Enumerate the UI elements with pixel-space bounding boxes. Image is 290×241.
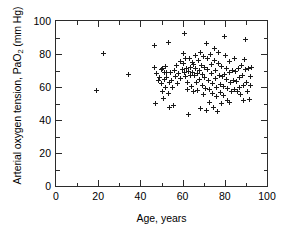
x-axis-minor-tick-top	[162, 21, 163, 25]
y-axis-title: Arterial oxygen tension, PaO2 (mm Hg)	[10, 2, 24, 189]
y-axis-title-main: Arterial oxygen tension, PaO	[11, 54, 23, 185]
data-point	[198, 106, 203, 111]
data-point	[153, 101, 158, 106]
plot-area: 020406080100020406080100	[55, 20, 268, 187]
x-axis-major-tick	[225, 180, 226, 186]
y-axis-tick-label: 20	[39, 148, 51, 159]
x-axis-tick-label: 20	[92, 191, 104, 202]
y-axis-major-tick-right	[261, 54, 267, 55]
x-axis-major-tick	[140, 180, 141, 186]
y-axis-major-tick-right	[261, 87, 267, 88]
x-axis-minor-tick	[204, 183, 205, 187]
y-axis-tick-label: 80	[39, 49, 51, 60]
data-point	[223, 53, 228, 58]
y-axis-major-tick	[56, 54, 62, 55]
y-axis-major-tick-right	[261, 120, 267, 121]
y-axis-major-tick	[56, 87, 62, 88]
data-point	[232, 56, 237, 61]
data-point	[175, 81, 180, 86]
x-axis-tick-label: 0	[53, 191, 59, 202]
data-point	[101, 51, 106, 56]
data-point	[161, 96, 166, 101]
x-axis-minor-tick-top	[119, 21, 120, 25]
y-axis-title-units: (mm Hg)	[11, 7, 23, 50]
data-point	[247, 97, 252, 102]
x-axis-minor-tick	[77, 183, 78, 187]
y-axis-minor-tick-right	[264, 170, 268, 171]
x-axis-tick-label: 60	[177, 191, 189, 202]
data-point	[227, 100, 232, 105]
data-point	[227, 59, 232, 64]
y-axis-tick-label: 100	[33, 16, 51, 27]
y-axis-major-tick	[56, 153, 62, 154]
data-point	[219, 101, 224, 106]
y-axis-minor-tick-right	[264, 38, 268, 39]
x-axis-major-tick-top	[225, 21, 226, 27]
data-point	[195, 88, 200, 93]
y-axis-title-subscript: 2	[16, 50, 25, 54]
y-axis-tick-label: 60	[39, 82, 51, 93]
x-axis-tick-label: 100	[258, 191, 276, 202]
data-point	[197, 77, 202, 82]
data-point	[240, 73, 245, 78]
data-point	[152, 43, 157, 48]
x-axis-major-tick	[98, 180, 99, 186]
data-point	[249, 65, 254, 70]
data-point	[152, 65, 157, 70]
data-point	[193, 53, 198, 58]
data-point	[245, 89, 250, 94]
data-point	[241, 98, 246, 103]
data-point	[238, 92, 243, 97]
data-point	[171, 103, 176, 108]
x-axis-minor-tick	[119, 183, 120, 187]
data-point	[186, 112, 191, 117]
y-axis-minor-tick	[56, 170, 60, 171]
y-axis-minor-tick	[56, 71, 60, 72]
y-axis-tick-label: 0	[45, 181, 51, 192]
data-point	[248, 74, 253, 79]
x-axis-minor-tick-top	[204, 21, 205, 25]
y-axis-minor-tick-right	[264, 71, 268, 72]
y-axis-major-tick	[56, 120, 62, 121]
data-point	[208, 52, 213, 57]
data-point	[126, 72, 131, 77]
data-point	[166, 91, 171, 96]
x-axis-major-tick-top	[140, 21, 141, 27]
x-axis-title: Age, years	[55, 212, 268, 224]
x-axis-minor-tick	[246, 183, 247, 187]
x-axis-major-tick-top	[98, 21, 99, 27]
data-point	[201, 92, 206, 97]
data-point	[216, 50, 221, 55]
y-axis-major-tick-right	[261, 153, 267, 154]
data-point	[222, 34, 227, 39]
data-point	[204, 108, 209, 113]
y-axis-minor-tick	[56, 137, 60, 138]
x-axis-minor-tick-top	[77, 21, 78, 25]
data-point	[204, 41, 209, 46]
data-point	[215, 109, 220, 114]
x-axis-tick-label: 40	[135, 191, 147, 202]
y-axis-minor-tick	[56, 38, 60, 39]
y-axis-minor-tick	[56, 104, 60, 105]
y-axis-minor-tick-right	[264, 137, 268, 138]
x-axis-major-tick-top	[183, 21, 184, 27]
data-point	[182, 31, 187, 36]
data-point	[94, 88, 99, 93]
data-point	[160, 89, 165, 94]
data-point	[242, 57, 247, 62]
data-point	[248, 83, 253, 88]
data-point	[243, 37, 248, 42]
x-axis-minor-tick	[162, 183, 163, 187]
data-point	[166, 40, 171, 45]
x-axis-major-tick	[183, 180, 184, 186]
data-point	[181, 51, 186, 56]
x-axis-tick-label: 80	[219, 191, 231, 202]
x-axis-minor-tick-top	[246, 21, 247, 25]
data-point	[174, 63, 179, 68]
y-axis-tick-label: 40	[39, 115, 51, 126]
scatter-plot-figure: Arterial oxygen tension, PaO2 (mm Hg) Ag…	[0, 0, 290, 241]
data-point	[163, 64, 168, 69]
y-axis-minor-tick-right	[264, 104, 268, 105]
